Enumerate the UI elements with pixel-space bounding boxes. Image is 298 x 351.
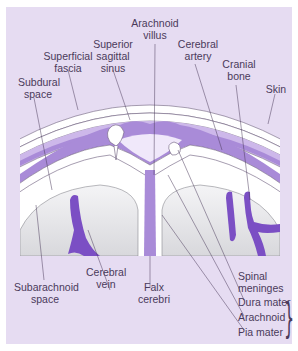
label-pia-mater: Pia mater: [238, 326, 283, 338]
label-cranial-bone: Cranial bone: [221, 58, 257, 82]
label-line: cerebri: [136, 293, 172, 305]
label-line: sinus: [90, 62, 136, 74]
label-line: Subdural: [18, 76, 58, 88]
label-dura-mater: Dura mater: [238, 296, 291, 308]
label-skin: Skin: [264, 83, 288, 95]
label-line: Arachnoid: [238, 311, 285, 323]
label-line: Cranial: [221, 58, 257, 70]
label-line: Cerebral: [86, 266, 126, 278]
label-line: Spinal: [238, 270, 284, 282]
label-superficial-fascia: Superficial fascia: [40, 50, 96, 74]
label-superior-sagittal-sinus: Superior sagittal sinus: [90, 38, 136, 74]
brace-icon: }: [284, 298, 294, 338]
label-line: Pia mater: [238, 326, 283, 338]
label-line: Subarachnoid: [14, 281, 76, 293]
label-line: Superior: [90, 38, 136, 50]
label-falx-cerebri: Falx cerebri: [136, 281, 172, 305]
label-arachnoid-villus: Arachnoid villus: [129, 17, 181, 41]
label-line: Skin: [264, 83, 288, 95]
label-line: Dura mater: [238, 296, 291, 308]
label-line: space: [18, 88, 58, 100]
label-line: sagittal: [90, 50, 136, 62]
label-line: fascia: [40, 62, 96, 74]
label-arachnoid: Arachnoid: [238, 311, 285, 323]
label-line: Arachnoid: [129, 17, 181, 29]
label-cerebral-artery: Cerebral artery: [176, 38, 220, 62]
label-line: vein: [86, 278, 126, 290]
label-line: artery: [176, 50, 220, 62]
label-line: Falx: [136, 281, 172, 293]
label-subarachnoid-space: Subarachnoid space: [14, 281, 76, 305]
label-line: Superficial: [40, 50, 96, 62]
label-subdural-space: Subdural space: [18, 76, 58, 100]
label-line: villus: [129, 29, 181, 41]
label-line: space: [14, 293, 76, 305]
label-line: Cerebral: [176, 38, 220, 50]
label-line: bone: [221, 70, 257, 82]
label-spinal-meninges: Spinal meninges: [238, 270, 284, 294]
label-cerebral-vein: Cerebral vein: [86, 266, 126, 290]
label-line: meninges: [238, 282, 284, 294]
